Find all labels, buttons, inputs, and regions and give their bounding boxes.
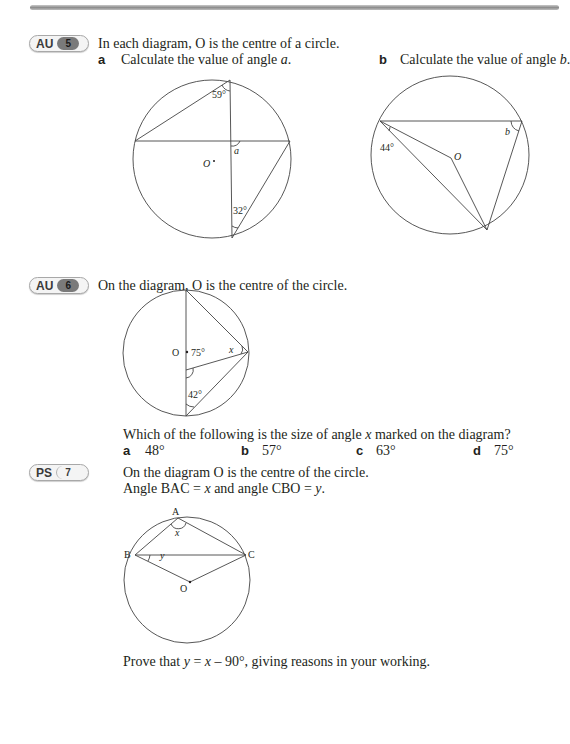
svg-text:B: B [124, 549, 131, 560]
question-7-prove-text: Prove that y = x – 90°, giving reasons i… [123, 654, 430, 670]
svg-text:C: C [248, 549, 255, 560]
svg-text:A: A [172, 506, 180, 517]
svg-text:x: x [174, 527, 180, 538]
svg-text:O: O [180, 583, 187, 594]
svg-text:y: y [159, 550, 165, 561]
